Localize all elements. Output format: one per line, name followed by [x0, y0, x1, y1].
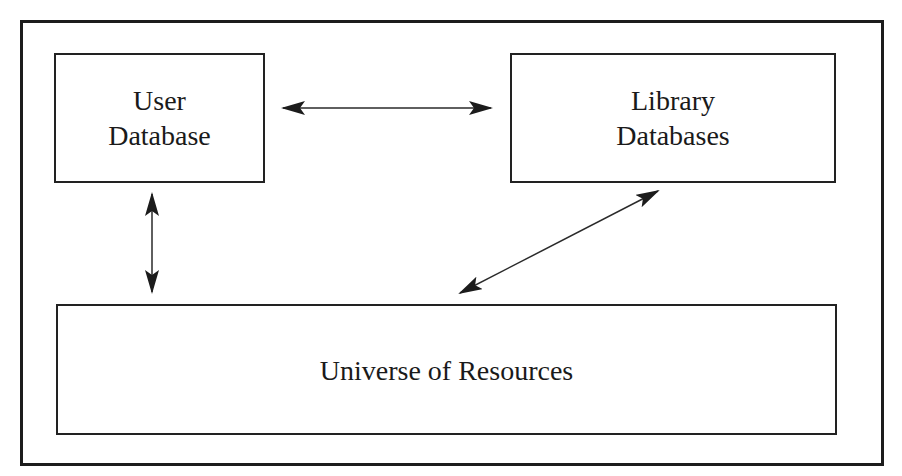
universe-of-resources-label-line-1: Universe of Resources — [320, 353, 573, 388]
user-database-label-line-2: Database — [108, 118, 211, 153]
user-database-label: User Database — [108, 83, 211, 153]
user-database-box: User Database — [54, 53, 265, 183]
universe-of-resources-box: Universe of Resources — [56, 304, 837, 435]
library-databases-box: Library Databases — [510, 53, 836, 183]
library-databases-label: Library Databases — [616, 83, 730, 153]
library-databases-label-line-1: Library — [616, 83, 730, 118]
library-databases-label-line-2: Databases — [616, 118, 730, 153]
user-database-label-line-1: User — [108, 83, 211, 118]
universe-of-resources-label: Universe of Resources — [320, 353, 573, 388]
